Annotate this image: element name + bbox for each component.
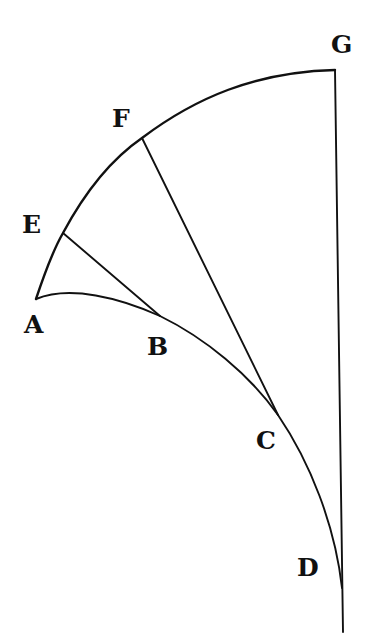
label-c: C [256, 428, 276, 453]
outer-arc-aefg [36, 70, 335, 299]
label-f: F [112, 106, 130, 131]
label-g: G [331, 32, 352, 57]
label-e: E [22, 212, 41, 237]
inner-curve-abcd [36, 293, 342, 588]
label-a: A [24, 312, 43, 337]
line-eb [63, 233, 160, 316]
label-d: D [297, 555, 319, 580]
geometry-diagram [0, 0, 365, 644]
line-gd [335, 70, 343, 632]
line-fc [142, 138, 278, 415]
label-b: B [147, 334, 168, 359]
